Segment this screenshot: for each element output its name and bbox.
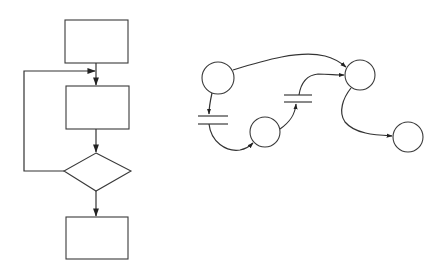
petri-arc-a-to-c bbox=[233, 54, 346, 70]
petri-place-b bbox=[250, 117, 280, 147]
petri-place-d bbox=[393, 122, 423, 152]
petri-place-a bbox=[202, 62, 234, 94]
flowchart-node-process-3 bbox=[66, 217, 128, 259]
flowchart bbox=[24, 20, 131, 259]
petri-arc-transition-1-to-b bbox=[209, 124, 253, 150]
flowchart-node-process-1 bbox=[65, 20, 128, 63]
flowchart-node-decision bbox=[64, 153, 131, 191]
petri-net bbox=[198, 54, 423, 152]
diagram-canvas bbox=[0, 0, 434, 267]
flowchart-node-process-2 bbox=[66, 86, 129, 129]
petri-transition-1 bbox=[198, 116, 228, 124]
petri-arc-c-to-d bbox=[342, 88, 392, 136]
petri-arc-transition-2-to-c bbox=[299, 74, 344, 95]
petri-arc-a-to-transition-1 bbox=[209, 93, 212, 114]
petri-arc-b-to-transition-2 bbox=[280, 104, 296, 129]
petri-transition-2 bbox=[284, 95, 312, 102]
petri-place-c bbox=[345, 60, 375, 90]
